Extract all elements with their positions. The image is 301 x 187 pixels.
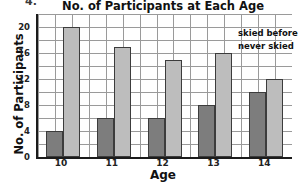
legend-entry-skied-before: skied before bbox=[238, 27, 298, 40]
y-tick-0: 0 bbox=[24, 152, 30, 162]
bar-10-never-skied bbox=[63, 27, 80, 157]
x-tick-13: 13 bbox=[207, 158, 220, 168]
gridline-vertical bbox=[38, 14, 39, 157]
bar-14-skied-before bbox=[249, 92, 266, 157]
bar-11-skied-before bbox=[97, 118, 114, 157]
bar-13-skied-before bbox=[198, 105, 215, 157]
bar-chart-figure: 4. No. of Participants at Each Age No. o… bbox=[0, 0, 301, 187]
x-tick-12: 12 bbox=[156, 158, 169, 168]
bar-13-never-skied bbox=[215, 53, 232, 157]
bar-12-skied-before bbox=[148, 118, 165, 157]
y-axis-tick-labels: 048121620 bbox=[0, 14, 33, 157]
x-tick-11: 11 bbox=[106, 158, 119, 168]
bar-11-never-skied bbox=[114, 47, 131, 158]
y-tick-8: 8 bbox=[24, 100, 30, 110]
bar-12-never-skied bbox=[165, 60, 182, 158]
gridline-vertical bbox=[190, 14, 191, 157]
gridline-horizontal bbox=[38, 14, 292, 15]
y-tick-4: 4 bbox=[24, 126, 30, 136]
x-tick-14: 14 bbox=[258, 158, 271, 168]
gridline-vertical bbox=[140, 14, 141, 157]
y-tick-16: 16 bbox=[18, 48, 30, 58]
x-tick-10: 10 bbox=[55, 158, 68, 168]
y-tick-12: 12 bbox=[18, 74, 30, 84]
y-tick-20: 20 bbox=[18, 22, 30, 32]
x-axis-label: Age bbox=[36, 168, 290, 182]
chart-title: No. of Participants at Each Age bbox=[36, 0, 290, 13]
bar-10-skied-before bbox=[46, 131, 63, 157]
legend-entry-never-skied: never skied bbox=[238, 40, 298, 53]
bar-14-never-skied bbox=[266, 79, 283, 157]
gridline-vertical bbox=[89, 14, 90, 157]
chart-legend: skied before never skied bbox=[238, 27, 298, 53]
